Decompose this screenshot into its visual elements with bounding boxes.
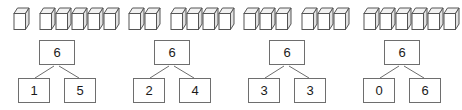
bond-part-left-box: 1 (18, 78, 50, 103)
cube-run (301, 7, 349, 34)
cube-run (243, 7, 291, 34)
cube-icon (427, 7, 444, 32)
bond-group: 624 (115, 0, 230, 110)
cube-icon (71, 7, 88, 32)
bond-part-right-box: 4 (179, 78, 211, 103)
cube-icon (39, 7, 56, 32)
cube-model-row (230, 7, 345, 34)
cube-icon (379, 7, 396, 32)
bond-part-right-box: 3 (294, 78, 326, 103)
bond-whole-box: 6 (39, 40, 75, 65)
cube-run (13, 7, 29, 34)
cube-icon (243, 7, 260, 32)
cube-icon (55, 7, 72, 32)
bond-group: 615 (0, 0, 115, 110)
bond-part-left-box: 3 (248, 78, 280, 103)
cube-run (128, 7, 160, 34)
number-bond: 624 (115, 38, 230, 108)
cube-model-row (0, 7, 115, 34)
bond-whole-box: 6 (269, 40, 305, 65)
cube-run (170, 7, 234, 34)
cube-icon (395, 7, 412, 32)
bond-part-right-box: 5 (64, 78, 96, 103)
cube-icon (13, 7, 30, 32)
bond-part-right-box: 6 (409, 78, 441, 103)
cube-icon (186, 7, 203, 32)
cube-icon (170, 7, 187, 32)
bond-group: 606 (345, 0, 460, 110)
cube-icon (443, 7, 460, 32)
number-bond-worksheet: 615624633606 (0, 0, 462, 110)
cube-icon (202, 7, 219, 32)
cube-icon (363, 7, 380, 32)
cube-icon (87, 7, 104, 32)
cube-icon (275, 7, 292, 32)
bond-part-left-box: 0 (363, 78, 395, 103)
cube-icon (411, 7, 428, 32)
cube-run (363, 7, 459, 34)
bond-part-left-box: 2 (133, 78, 165, 103)
bond-whole-box: 6 (384, 40, 420, 65)
number-bond: 633 (230, 38, 345, 108)
cube-model-row (115, 7, 230, 34)
cube-icon (128, 7, 145, 32)
cube-icon (317, 7, 334, 32)
cube-icon (144, 7, 161, 32)
cube-model-row (345, 7, 460, 34)
bond-whole-box: 6 (154, 40, 190, 65)
bond-group: 633 (230, 0, 345, 110)
number-bond: 606 (345, 38, 460, 108)
cube-run (39, 7, 119, 34)
number-bond: 615 (0, 38, 115, 108)
cube-icon (259, 7, 276, 32)
cube-icon (301, 7, 318, 32)
